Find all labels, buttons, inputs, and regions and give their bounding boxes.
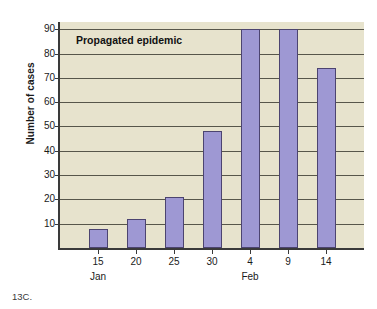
y-tick-label: 70 (44, 73, 55, 83)
x-tick-mark (98, 248, 99, 254)
x-tick-mark (136, 248, 137, 254)
y-axis-title: Number of cases (25, 34, 36, 174)
y-tick-mark (55, 199, 60, 200)
x-tick-mark (288, 248, 289, 254)
x-tick-label: 25 (168, 257, 179, 267)
gridline (60, 54, 364, 55)
bar (127, 219, 146, 248)
y-tick-mark (55, 54, 60, 55)
bar (317, 68, 336, 248)
y-tick-label: 40 (44, 146, 55, 156)
y-tick-label: 10 (44, 219, 55, 229)
bar (165, 197, 184, 248)
y-tick-label: 90 (44, 24, 55, 34)
x-tick-label: 20 (130, 257, 141, 267)
chart-title: Propagated epidemic (76, 34, 182, 46)
y-tick-label: 50 (44, 121, 55, 131)
y-tick-label: 60 (44, 97, 55, 107)
y-tick-mark (55, 29, 60, 30)
x-tick-label: 9 (285, 257, 291, 267)
plot-area: Propagated epidemic 10203040506070809015… (58, 22, 364, 250)
y-tick-label: 20 (44, 194, 55, 204)
figure-caption: 13C. (12, 291, 32, 302)
x-tick-label: 14 (320, 257, 331, 267)
x-tick-mark (326, 248, 327, 254)
x-axis-month-label: Feb (241, 272, 258, 282)
bar (89, 229, 108, 248)
gridline (60, 29, 364, 30)
bar (203, 131, 222, 248)
bar (279, 29, 298, 248)
x-tick-label: 4 (247, 257, 253, 267)
x-axis-month-label: Jan (90, 272, 106, 282)
x-tick-label: 15 (92, 257, 103, 267)
bar (241, 29, 260, 248)
y-tick-label: 30 (44, 170, 55, 180)
x-tick-label: 30 (206, 257, 217, 267)
y-tick-mark (55, 175, 60, 176)
figure: Number of cases Propagated epidemic 1020… (0, 0, 377, 309)
x-tick-mark (250, 248, 251, 254)
x-tick-mark (212, 248, 213, 254)
y-tick-mark (55, 151, 60, 152)
y-tick-mark (55, 126, 60, 127)
y-tick-label: 80 (44, 49, 55, 59)
y-tick-mark (55, 78, 60, 79)
x-tick-mark (174, 248, 175, 254)
y-tick-mark (55, 224, 60, 225)
y-tick-mark (55, 102, 60, 103)
